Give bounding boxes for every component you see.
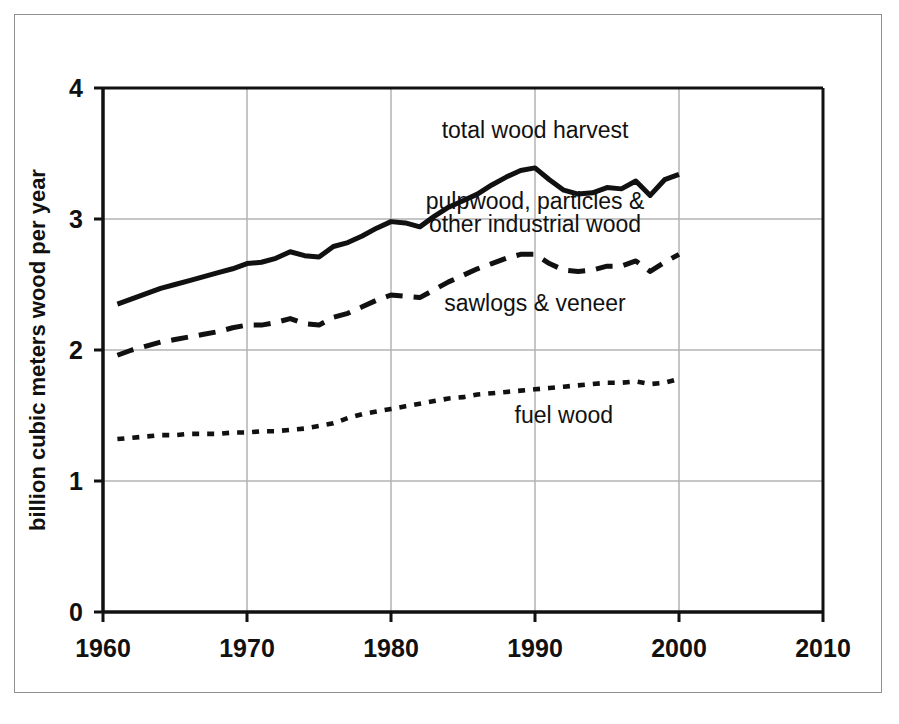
x-tick-label: 1980	[363, 634, 419, 662]
y-tick-label: 4	[69, 74, 83, 102]
series-annotation-4: sawlogs & veneer	[444, 290, 626, 316]
series-annotation-1: total wood harvest	[442, 117, 629, 143]
series-annotation-2: pulpwood, particles &	[426, 188, 645, 214]
chart-canvas: 01234 196019701980199020002010 total woo…	[0, 0, 899, 724]
y-tick-label: 2	[69, 336, 83, 364]
x-tick-label: 1960	[75, 634, 131, 662]
x-tick-label: 1990	[507, 634, 563, 662]
gridlines-group	[103, 88, 823, 612]
x-tick-label: 1970	[219, 634, 275, 662]
series-annotation-5: fuel wood	[515, 402, 613, 428]
x-tick-label: 2000	[651, 634, 707, 662]
series-annotation-3: other industrial wood	[429, 211, 641, 237]
y-tick-label: 0	[69, 598, 83, 626]
figure-container: 01234 196019701980199020002010 total woo…	[0, 0, 899, 724]
y-tick-label: 3	[69, 205, 83, 233]
tick-marks-group	[94, 88, 823, 622]
y-tick-label: 1	[69, 467, 83, 495]
x-tick-label: 2010	[795, 634, 851, 662]
y-axis-title-group: billion cubic meters wood per year	[25, 169, 50, 531]
y-tick-labels-group: 01234	[69, 74, 83, 626]
x-tick-labels-group: 196019701980199020002010	[75, 634, 851, 662]
y-axis-title: billion cubic meters wood per year	[25, 169, 50, 531]
